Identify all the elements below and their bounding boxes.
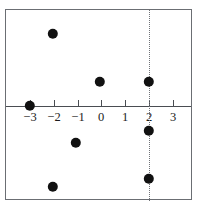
- data-point: [95, 77, 105, 87]
- x-tick-label-4: 1: [122, 111, 128, 124]
- x-tick-label-2: −1: [71, 111, 84, 124]
- data-point: [144, 174, 154, 184]
- data-point: [144, 77, 154, 87]
- data-point: [48, 182, 58, 192]
- x-tick-label-1: −2: [47, 111, 60, 124]
- vertical-dashed-line: [149, 10, 150, 201]
- plot-area: −3−2−10123: [6, 10, 191, 199]
- scatter-plot-figure: −3−2−10123: [0, 0, 200, 206]
- x-tick-2: [78, 100, 79, 107]
- x-tick-3: [101, 100, 102, 107]
- x-tick-1: [54, 100, 55, 107]
- x-tick-4: [125, 100, 126, 107]
- x-tick-6: [173, 100, 174, 107]
- x-tick-label-0: −3: [23, 111, 36, 124]
- data-point: [71, 138, 81, 148]
- data-point: [144, 126, 154, 136]
- data-point: [48, 29, 58, 39]
- x-tick-label-6: 3: [170, 111, 176, 124]
- plot-frame: −3−2−10123: [5, 9, 192, 200]
- x-tick-label-3: 0: [98, 111, 104, 124]
